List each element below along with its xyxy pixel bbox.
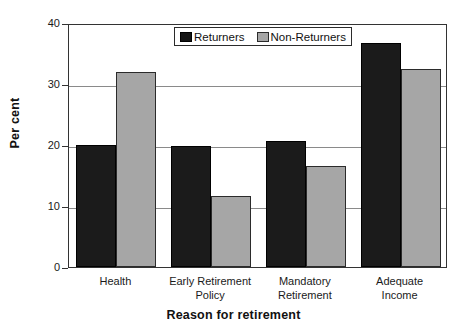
category-label-mandatory-retirement: MandatoryRetirement [258, 274, 353, 302]
category-label-adequate-income: AdequateIncome [352, 274, 447, 302]
y-tick-label-30: 30 [30, 79, 60, 90]
category-label-line: Mandatory [258, 274, 353, 288]
chart-legend: ReturnersNon-Returners [174, 27, 352, 46]
category-label-line: Adequate [352, 274, 447, 288]
category-label-health: Health [68, 274, 163, 288]
legend-label: Returners [194, 31, 245, 43]
bar-non-returners-mandatory-retirement [306, 166, 346, 267]
bar-chart-figure: Per cent 010203040 ReturnersNon-Returner… [0, 0, 467, 327]
y-tick-label-10: 10 [30, 201, 60, 212]
plot-area [68, 24, 447, 268]
y-axis-title: Per cent [8, 78, 22, 168]
legend-entry-returners: Returners [180, 31, 245, 43]
bar-returners-health [76, 145, 116, 267]
bar-non-returners-adequate-income [401, 69, 441, 267]
bar-returners-mandatory-retirement [266, 141, 306, 267]
y-tick-label-20: 20 [30, 140, 60, 151]
category-label-line: Health [68, 274, 163, 288]
bar-non-returners-health [116, 72, 156, 267]
legend-swatch-gray [257, 32, 269, 42]
category-label-line: Early Retirement [163, 274, 258, 288]
category-label-line: Policy [163, 288, 258, 302]
y-tick-label-40: 40 [30, 18, 60, 29]
bar-non-returners-early-retirement-policy [211, 196, 251, 267]
y-tick-mark-0 [62, 268, 68, 269]
legend-label: Non-Returners [271, 31, 346, 43]
y-tick-label-0: 0 [30, 262, 60, 273]
x-axis-title: Reason for retirement [0, 308, 467, 322]
category-label-line: Income [352, 288, 447, 302]
legend-entry-non-returners: Non-Returners [257, 31, 346, 43]
legend-swatch-black [180, 32, 192, 42]
category-label-early-retirement-policy: Early RetirementPolicy [163, 274, 258, 302]
bar-returners-early-retirement-policy [171, 146, 211, 267]
bar-returners-adequate-income [361, 43, 401, 267]
category-label-line: Retirement [258, 288, 353, 302]
